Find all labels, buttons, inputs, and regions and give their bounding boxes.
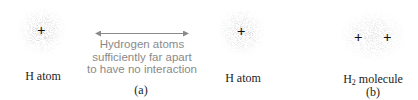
nucleus-plus-icon: + [354,29,363,46]
description-line: Hydrogen atoms [87,38,197,51]
description-line: to have no interaction [87,63,197,76]
h2-label-h: H [343,72,352,86]
nucleus-plus-icon: + [237,23,246,40]
description-line: sufficiently far apart [87,51,197,64]
nucleus-plus-icon: + [383,29,392,46]
interaction-description: Hydrogen atoms sufficiently far apart to… [87,38,197,76]
h-atom-left-label: H atom [25,69,61,84]
h2-molecule-cloud [337,9,409,63]
h-atom-right-label: H atom [225,71,261,86]
panel-b-caption: (b) [366,85,380,100]
h2-label-rest: molecule [356,72,403,86]
panel-a-caption: (a) [134,83,147,98]
nucleus-plus-icon: + [37,22,46,39]
